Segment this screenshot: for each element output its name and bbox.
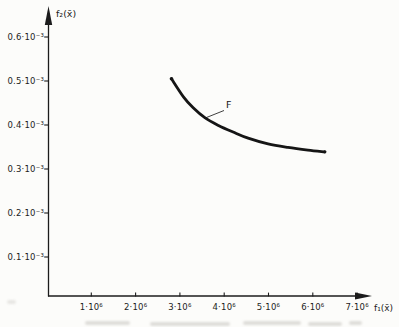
- y-tick-label: 0.3·10⁻³: [5, 164, 44, 174]
- y-axis-title: f₂(x̄): [56, 8, 76, 19]
- y-tick-label: 0.2·10⁻³: [5, 208, 44, 218]
- y-axis-arrow-icon: [45, 6, 52, 25]
- x-tick-label: 6·10⁶: [293, 302, 333, 312]
- plot-canvas: [0, 0, 399, 327]
- curve-f-start: [170, 77, 174, 81]
- curve-f: [171, 79, 324, 152]
- scan-artifact: [85, 321, 130, 325]
- y-tick-label: 0.5·10⁻³: [5, 76, 44, 86]
- annotation-leader-line: [204, 111, 224, 119]
- x-tick-label: 3·10⁶: [160, 302, 200, 312]
- scan-artifact: [243, 321, 301, 325]
- scan-artifact: [349, 321, 362, 325]
- curve-annotation-label: F: [226, 99, 231, 110]
- y-tick-label: 0.1·10⁻³: [5, 252, 44, 262]
- x-tick-label: 4·10⁶: [204, 302, 244, 312]
- x-tick-label: 2·10⁶: [116, 302, 156, 312]
- x-tick-label: 7·10⁶: [337, 302, 377, 312]
- x-tick-label: 5·10⁶: [249, 302, 289, 312]
- scan-artifact: [150, 322, 230, 326]
- x-tick-label: 1·10⁶: [71, 302, 111, 312]
- scan-artifact: [7, 300, 16, 304]
- y-tick-label: 0.6·10⁻³: [5, 32, 44, 42]
- curve-f-end: [323, 150, 326, 153]
- figure: f₂(x̄) f₁(x̄) F 1·10⁶2·10⁶3·10⁶4·10⁶5·10…: [0, 0, 399, 327]
- y-tick-label: 0.4·10⁻³: [5, 120, 44, 130]
- scan-artifact: [308, 322, 342, 326]
